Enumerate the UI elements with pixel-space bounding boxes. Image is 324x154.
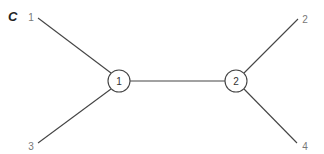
internal-node-1: 1 [108, 70, 130, 92]
leaf-label-2: 2 [302, 14, 308, 25]
leaf-label-1: 1 [28, 12, 34, 23]
leaf-label-4: 4 [302, 141, 308, 152]
internal-node-2: 2 [225, 70, 247, 92]
edge-leaf3-node1 [38, 89, 111, 143]
edge-leaf4-node2 [244, 89, 297, 143]
node-label: 2 [233, 76, 239, 87]
edges [38, 18, 298, 143]
node-label: 1 [116, 76, 122, 87]
edge-leaf2-node2 [244, 19, 298, 73]
edge-leaf1-node1 [38, 18, 111, 73]
leaf-label-3: 3 [28, 141, 34, 152]
tree-diagram: C 1 2 1 3 2 4 [0, 0, 324, 154]
panel-label: C [8, 9, 18, 24]
